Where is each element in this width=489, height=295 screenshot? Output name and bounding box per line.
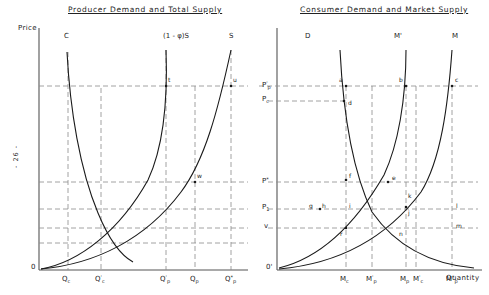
left-vertical-guides <box>68 50 231 270</box>
right-intersection-dots <box>319 85 454 230</box>
page-number-marker: - 26 - <box>12 145 20 168</box>
left-panel-title: Producer Demand and Total Supply <box>68 5 222 14</box>
right-vertical-guides <box>346 86 452 270</box>
x-tick-Mp-sub: p <box>406 278 409 284</box>
point-label-u: u <box>233 77 237 83</box>
point-label-d: d <box>348 100 352 106</box>
point-label-g: g <box>309 203 313 209</box>
x-tick-Qp-prime: Q'p <box>160 275 170 284</box>
x-tick-Qp: Qp <box>190 275 199 284</box>
point-label-j: j <box>408 210 410 216</box>
curve-label-M: M <box>452 32 458 40</box>
x-tick-Qc-prime: Q'c <box>95 275 105 284</box>
point-label-r: r <box>340 231 342 237</box>
y-tick-P-star-sup: * <box>266 176 269 182</box>
y-tick-Pc: Pc <box>262 96 269 104</box>
right-origin-label: 0' <box>266 264 272 271</box>
x-tick-Mc: Mc <box>340 275 349 284</box>
x-tick-Mp-prime-sub: p <box>373 278 376 284</box>
point-label-l: l <box>456 203 458 209</box>
curve-label-S: S <box>229 32 233 40</box>
curve-consumer-demand-D <box>340 50 474 268</box>
curve-label-D: D <box>305 32 310 40</box>
curve-market-supply-M <box>279 50 452 269</box>
x-tick-Mc-prime: M'c <box>413 275 423 284</box>
point-label-f: f <box>349 173 351 179</box>
point-label-h: h <box>322 203 326 209</box>
curve-label-C: C <box>64 32 69 40</box>
point-label-i: i <box>349 203 351 209</box>
x-tick-Mc-prime-sub: c <box>420 278 423 284</box>
left-origin-label: 0 <box>31 264 35 271</box>
x-tick-Qp-prime-sub: p <box>167 278 170 284</box>
curve-label-M-prime: M' <box>394 32 402 40</box>
point-label-m: m <box>456 223 462 229</box>
point-label-b: b <box>399 77 403 83</box>
y-tick-P-star: P* <box>262 177 269 185</box>
curve-producer-demand-C <box>67 52 133 262</box>
curve-discounted-supply <box>41 50 166 269</box>
x-tick-Qc-prime-sub: c <box>102 278 105 284</box>
point-label-t: t <box>168 77 170 83</box>
y-tick-Pp-prime-sub: p <box>268 84 271 90</box>
x-tick-Qc-sub: c <box>68 278 71 284</box>
x-tick-Qp-star-sub: p <box>233 278 236 284</box>
y-tick-v: v <box>264 223 268 230</box>
point-label-w: w <box>197 173 202 179</box>
y-tick-Pc-sub: c <box>266 98 269 104</box>
x-tick-Qp-sub: p <box>196 278 199 284</box>
right-horizontal-guides <box>259 86 478 228</box>
x-tick-Mp-prime: M'p <box>366 275 377 284</box>
x-tick-Qc: Qc <box>62 275 70 284</box>
curve-label-discounted-supply: (1 - φ)S <box>163 32 189 40</box>
right-panel-title: Consumer Demand and Market Supply <box>300 5 468 14</box>
x-tick-Mp-star-sub: p <box>455 278 458 284</box>
figure-canvas: - 26 - Producer Demand and Total Supply … <box>0 0 489 295</box>
point-label-e: e <box>392 175 396 181</box>
diagram-svg <box>0 0 489 295</box>
x-tick-Qp-star: Q*p <box>225 275 236 284</box>
y-tick-P1-sub: 1 <box>266 206 269 212</box>
point-label-k: k <box>408 193 411 199</box>
x-tick-Mc-sub: c <box>346 278 349 284</box>
y-tick-P1: P1 <box>262 204 269 212</box>
point-label-n: n <box>399 231 403 237</box>
y-tick-Pp-prime: P'p <box>262 81 271 90</box>
left-y-axis-label: Price <box>18 24 37 32</box>
left-intersection-dots <box>165 85 233 184</box>
point-label-c: c <box>455 77 458 83</box>
point-label-a: a <box>339 77 343 83</box>
x-tick-Mp: Mp <box>400 275 409 284</box>
x-tick-Mp-star: M*p <box>446 275 458 284</box>
